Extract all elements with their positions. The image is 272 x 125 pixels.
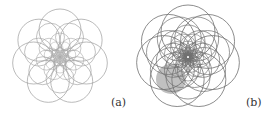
subfigure-b: (b) <box>136 0 272 125</box>
subfigure-label-b: (b) <box>246 97 262 108</box>
rosette-circle <box>18 19 60 61</box>
rosette-circle <box>60 19 102 61</box>
subfigure-label-a: (a) <box>111 97 126 108</box>
rosette-circle <box>39 9 81 51</box>
rosette-circle <box>175 17 219 61</box>
subfigure-a: (a) <box>0 0 136 125</box>
